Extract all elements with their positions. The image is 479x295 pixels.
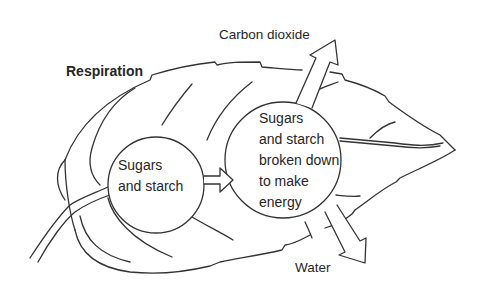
leaf-vein bbox=[340, 138, 443, 145]
carbon-dioxide-arrow bbox=[296, 40, 338, 108]
respiration-diagram: Respiration Carbon dioxide Water Sugars … bbox=[0, 0, 479, 295]
process-line: Sugars bbox=[259, 108, 339, 129]
leaf-illustration bbox=[0, 0, 479, 295]
leaf-vein bbox=[162, 84, 192, 125]
input-line: Sugars bbox=[118, 155, 183, 176]
leaf-vein bbox=[80, 216, 130, 262]
water-arrow bbox=[325, 205, 366, 263]
leaf-vein bbox=[370, 122, 395, 138]
process-line: broken down bbox=[259, 150, 339, 171]
process-node-text: Sugars and starch broken down to make en… bbox=[259, 108, 339, 213]
diagram-title: Respiration bbox=[66, 64, 143, 78]
water-label: Water bbox=[295, 261, 331, 275]
leaf-vein bbox=[336, 195, 360, 196]
carbon-dioxide-label: Carbon dioxide bbox=[219, 28, 310, 42]
leaf-stem bbox=[30, 187, 108, 258]
input-line: and starch bbox=[118, 176, 183, 197]
process-line: to make bbox=[259, 171, 339, 192]
process-line: and starch bbox=[259, 129, 339, 150]
input-node-text: Sugars and starch bbox=[118, 155, 183, 197]
leaf-vein bbox=[187, 214, 233, 240]
leaf-outline-lower bbox=[75, 230, 310, 273]
process-line: energy bbox=[259, 192, 339, 213]
